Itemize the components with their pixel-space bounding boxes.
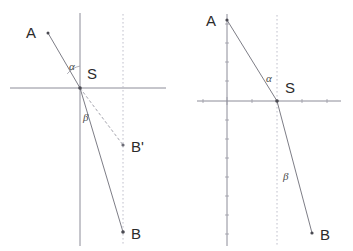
left-label-a: A bbox=[26, 24, 36, 41]
right-label-beta: β bbox=[282, 170, 289, 182]
right-point-s-marker bbox=[275, 99, 279, 103]
refraction-figure: A S B' B α β bbox=[0, 0, 353, 251]
right-label-alpha: α bbox=[266, 72, 272, 84]
right-label-s: S bbox=[285, 79, 295, 96]
left-label-beta: β bbox=[82, 111, 89, 123]
right-refracted-ray bbox=[277, 101, 312, 233]
right-incident-ray bbox=[227, 20, 277, 101]
right-point-b-marker bbox=[310, 231, 313, 234]
left-label-b: B bbox=[131, 225, 141, 242]
right-label-b: B bbox=[320, 226, 330, 243]
left-label-alpha: α bbox=[69, 60, 75, 72]
left-label-s: S bbox=[87, 65, 97, 82]
diagram-canvas: A S B' B α β bbox=[0, 0, 353, 251]
left-incident-ray bbox=[48, 33, 80, 88]
left-label-b-prime: B' bbox=[131, 138, 144, 155]
left-point-b-marker bbox=[121, 230, 125, 234]
right-label-a: A bbox=[206, 12, 216, 29]
left-refracted-ray bbox=[80, 88, 123, 232]
left-point-bprime-marker bbox=[121, 143, 124, 146]
panel-left: A S B' B α β bbox=[10, 13, 166, 246]
panel-right: A S B α β bbox=[197, 12, 341, 246]
left-point-a-marker bbox=[47, 32, 50, 35]
left-point-s-marker bbox=[78, 86, 82, 90]
right-point-a-marker bbox=[225, 18, 228, 21]
